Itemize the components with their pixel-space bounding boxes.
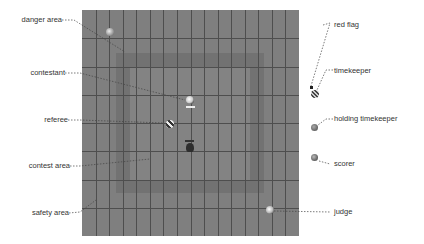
label-red-flag: red flag	[334, 20, 359, 29]
label-scorer: scorer	[334, 159, 355, 168]
label-contestant: contestant	[30, 68, 65, 77]
leader-safety-area	[69, 200, 96, 213]
label-safety-area: safety area	[32, 208, 69, 217]
leader-contestant	[65, 73, 185, 100]
leader-red-flag	[311, 23, 330, 86]
leader-scorer	[319, 161, 330, 164]
leader-danger-area	[62, 20, 125, 52]
leader-referee	[68, 120, 164, 123]
leader-contest-area	[70, 159, 150, 166]
label-danger-area: danger area	[22, 15, 62, 24]
leader-timekeeper	[317, 70, 333, 90]
leader-judge	[274, 211, 330, 212]
leader-holding-timekeeper	[318, 119, 333, 125]
label-contest-area: contest area	[29, 161, 70, 170]
label-referee: referee	[44, 115, 68, 124]
label-holding-timekeeper: holding timekeeper	[334, 114, 397, 123]
label-judge: judge	[334, 207, 352, 216]
label-timekeeper: timekeeper	[334, 66, 371, 75]
